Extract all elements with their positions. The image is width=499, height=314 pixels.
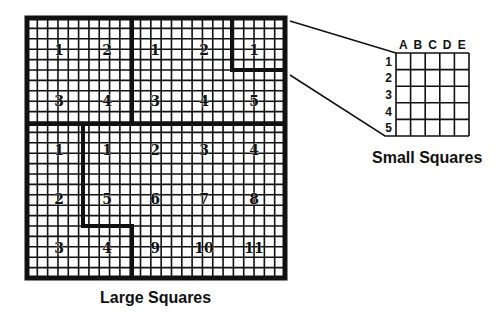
- large-square-number: 4: [249, 142, 259, 158]
- large-square-number: 3: [54, 240, 64, 256]
- large-square-number: 4: [102, 93, 112, 109]
- large-square-number: 3: [199, 142, 209, 158]
- small-grid-column-header: E: [458, 38, 466, 52]
- large-square-number: 3: [150, 93, 160, 109]
- large-square-number: 1: [150, 42, 160, 58]
- small-grid-row-header: 3: [385, 88, 392, 102]
- large-square-number: 2: [54, 191, 64, 207]
- large-square-number: 7: [199, 191, 209, 207]
- large-square-number: 10: [194, 240, 214, 256]
- connector-line: [290, 21, 396, 53]
- large-square-number: 6: [150, 191, 160, 207]
- small-grid-column-header: C: [428, 38, 437, 52]
- small-squares-caption: Small Squares: [372, 149, 482, 167]
- large-square-number: 1: [54, 42, 64, 58]
- large-square-number: 2: [150, 142, 160, 158]
- small-grid: [396, 53, 469, 136]
- small-grid-column-header: A: [399, 38, 408, 52]
- large-square-number: 1: [102, 142, 112, 158]
- large-square-number: 2: [102, 42, 112, 58]
- small-grid-row-header: 5: [385, 121, 392, 135]
- large-square-number: 5: [102, 191, 112, 207]
- large-square-number: 4: [102, 240, 112, 256]
- large-square-number: 1: [54, 142, 64, 158]
- zoom-connector-lines: [290, 21, 396, 136]
- large-square-number: 3: [54, 93, 64, 109]
- large-square-number: 5: [249, 93, 259, 109]
- large-squares-caption: Large Squares: [100, 289, 211, 307]
- large-grid-labels: 121213434511234256783491011: [54, 42, 264, 256]
- small-grid-row-header: 1: [385, 55, 392, 69]
- large-square-number: 2: [199, 42, 209, 58]
- large-square-number: 11: [244, 240, 263, 256]
- small-grid-column-header: B: [414, 38, 423, 52]
- large-square-number: 4: [199, 93, 209, 109]
- small-grid-row-header: 2: [385, 71, 392, 85]
- small-grid-column-header: D: [443, 38, 452, 52]
- small-grid-row-header: 4: [385, 105, 392, 119]
- large-square-number: 9: [150, 240, 160, 256]
- large-square-number: 8: [249, 191, 259, 207]
- large-square-number: 1: [249, 42, 259, 58]
- connector-line: [290, 75, 396, 136]
